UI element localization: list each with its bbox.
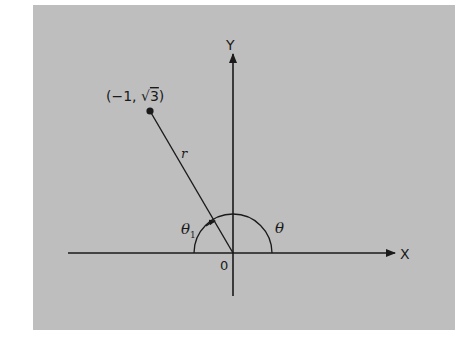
point-label-radicand: 3: [150, 88, 159, 104]
radius-label: r: [181, 146, 188, 161]
theta-label: θ: [275, 219, 284, 237]
coordinate-diagram: Y X 0 (−1, √3) r θ θ1: [0, 0, 476, 350]
origin-label: 0: [220, 258, 228, 273]
point-label-prefix: (−1,: [106, 88, 141, 104]
point-marker: [146, 107, 153, 114]
x-axis-label: X: [400, 246, 410, 262]
theta1-label: θ1: [181, 220, 196, 240]
y-axis-label: Y: [225, 37, 235, 53]
point-label-suffix: ): [159, 88, 164, 104]
theta1-subscript: 1: [190, 230, 196, 240]
point-label: (−1, √3): [106, 88, 164, 104]
theta1-symbol: θ: [181, 220, 190, 238]
point-label-sqrt: √: [141, 88, 150, 104]
